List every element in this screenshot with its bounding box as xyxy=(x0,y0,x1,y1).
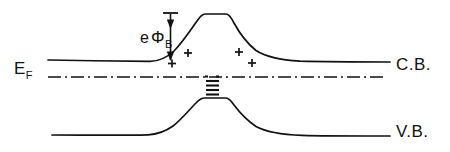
barrier-height-label: eΦB xyxy=(140,29,172,50)
fermi-level-subscript: F xyxy=(26,69,33,81)
fermi-level-symbol: E xyxy=(14,59,25,78)
valence-band-curve xyxy=(52,98,390,136)
conduction-band-curve xyxy=(48,14,390,62)
valence-band-label: V.B. xyxy=(396,123,429,140)
positive-charge-right-inner xyxy=(235,48,243,56)
band-diagram-figure: C.B. V.B. EF eΦB xyxy=(0,0,450,152)
interface-states-stack xyxy=(205,77,219,95)
conduction-band-label-text: C.B. xyxy=(396,55,431,74)
conduction-band-label: C.B. xyxy=(396,56,431,73)
positive-charge-right-outer xyxy=(248,59,256,67)
fermi-level-label: EF xyxy=(14,60,33,81)
positive-charge-left-outer xyxy=(184,49,192,57)
band-diagram-canvas xyxy=(0,0,450,152)
positive-charge-left-inner xyxy=(168,60,176,68)
barrier-subscript: B xyxy=(165,38,172,50)
barrier-phi-symbol: Φ xyxy=(151,28,165,47)
barrier-prefix: e xyxy=(140,29,149,46)
valence-band-label-text: V.B. xyxy=(396,122,429,141)
